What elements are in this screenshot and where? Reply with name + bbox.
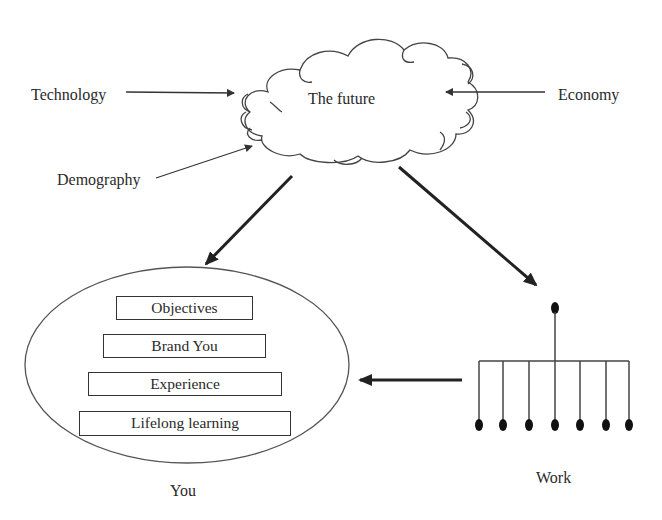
work-org-chart bbox=[475, 302, 633, 431]
future-to-you-arrow bbox=[206, 176, 292, 264]
objectives-box: Objectives bbox=[116, 296, 253, 320]
diagram-canvas bbox=[0, 0, 662, 520]
work-label: Work bbox=[536, 469, 571, 487]
future-to-work-arrow bbox=[399, 167, 536, 285]
lifelong-learning-box: Lifelong learning bbox=[79, 411, 291, 436]
brand-you-box: Brand You bbox=[103, 334, 266, 358]
economy-label: Economy bbox=[558, 86, 619, 104]
experience-box: Experience bbox=[88, 372, 282, 396]
technology-arrow bbox=[126, 92, 234, 93]
demography-arrow bbox=[156, 146, 252, 178]
you-label: You bbox=[170, 482, 196, 500]
cloud-label: The future bbox=[308, 90, 375, 108]
demography-label: Demography bbox=[57, 171, 141, 189]
technology-label: Technology bbox=[31, 86, 106, 104]
